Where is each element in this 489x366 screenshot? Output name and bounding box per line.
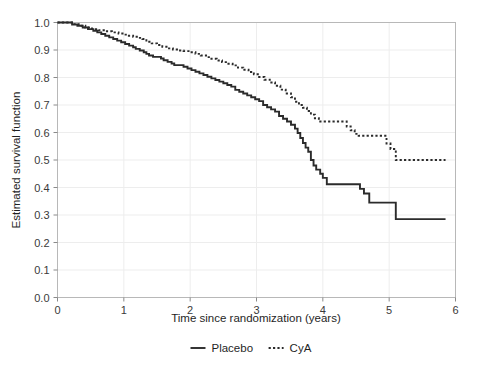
- legend-label-cya: CyA: [290, 342, 312, 354]
- y-tick-label: 0.4: [34, 182, 49, 194]
- y-tick-label: 0.8: [34, 72, 49, 84]
- series-line-cya: [58, 23, 446, 161]
- legend-label-placebo: Placebo: [212, 342, 254, 354]
- y-axis-ticks: 0.00.10.20.30.40.50.60.70.80.91.0: [34, 17, 57, 304]
- data-series: [58, 23, 446, 220]
- y-tick-label: 0.9: [34, 44, 49, 56]
- y-tick-label: 0.3: [34, 209, 49, 221]
- x-tick-label: 5: [386, 304, 392, 316]
- series-line-placebo: [58, 23, 446, 220]
- x-tick-label: 1: [121, 304, 127, 316]
- y-tick-label: 0.7: [34, 99, 49, 111]
- x-tick-label: 6: [452, 304, 458, 316]
- y-tick-label: 0.0: [34, 292, 49, 304]
- y-tick-label: 0.1: [34, 264, 49, 276]
- x-tick-label: 0: [54, 304, 60, 316]
- chart-canvas: 0123456 0.00.10.20.30.40.50.60.70.80.91.…: [0, 0, 489, 366]
- y-axis-title: Estimated survival function: [10, 92, 22, 229]
- legend: PlaceboCyA: [191, 342, 312, 354]
- y-tick-label: 0.5: [34, 154, 49, 166]
- survival-curve-figure: 0123456 0.00.10.20.30.40.50.60.70.80.91.…: [0, 0, 489, 366]
- y-tick-label: 0.6: [34, 127, 49, 139]
- x-axis-title: Time since randomization (years): [171, 312, 341, 324]
- y-tick-label: 0.2: [34, 237, 49, 249]
- y-tick-label: 1.0: [34, 17, 49, 29]
